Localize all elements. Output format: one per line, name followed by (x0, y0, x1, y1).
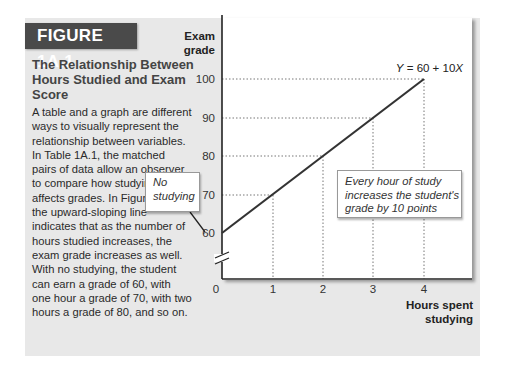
x-tick-0: 0 (213, 283, 219, 295)
equation-label: Y = 60 + 10X (396, 62, 464, 74)
x-axis-label-line1: Hours spent (406, 299, 473, 311)
y-tick-70: 70 (202, 189, 215, 201)
x-tick-1: 1 (270, 283, 276, 295)
y-tick-80: 80 (202, 150, 215, 162)
x-tick-2: 2 (320, 283, 326, 295)
y-axis-label-line1: Exam (184, 30, 215, 42)
x-axis-label-line2: studying (425, 313, 473, 325)
x-tick-4: 4 (421, 283, 428, 295)
y-tick-60: 60 (202, 227, 215, 239)
no-studying-callout: No studying (145, 172, 200, 212)
y-tick-100: 100 (196, 73, 215, 85)
x-tick-3: 3 (370, 283, 376, 295)
every-hour-callout: Every hour of study increases the studen… (337, 170, 462, 218)
y-tick-90: 90 (202, 112, 215, 124)
y-axis-label-line2: grade (184, 44, 215, 56)
